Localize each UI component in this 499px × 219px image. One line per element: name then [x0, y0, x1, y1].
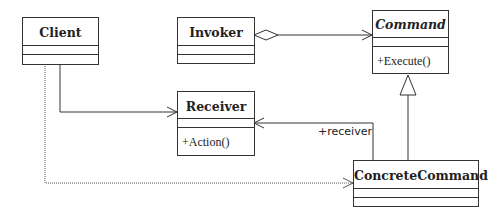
class-invoker[interactable]: Invoker: [177, 17, 255, 64]
class-command[interactable]: Command +Execute(): [372, 10, 449, 74]
operation-action: +Action(): [182, 135, 229, 150]
class-name: Command: [373, 17, 448, 32]
divider: [354, 197, 478, 198]
divider: [23, 54, 98, 55]
divider: [373, 37, 448, 38]
association-client-receiver: [60, 64, 177, 117]
divider: [178, 118, 254, 119]
class-client[interactable]: Client: [22, 17, 99, 65]
divider: [23, 45, 98, 46]
role-label-receiver: +receiver: [318, 125, 372, 138]
class-name: Invoker: [178, 25, 254, 40]
divider: [354, 188, 478, 189]
divider: [178, 127, 254, 128]
class-name: ConcreteCommand: [354, 168, 478, 183]
divider: [178, 54, 254, 55]
class-concrete-command[interactable]: ConcreteCommand: [353, 160, 479, 207]
generalization-concretecommand-command: [400, 75, 416, 160]
class-receiver[interactable]: Receiver +Action(): [177, 91, 255, 156]
operation-execute: +Execute(): [377, 54, 430, 69]
class-name: Client: [23, 25, 98, 40]
aggregation-invoker-command: [254, 30, 372, 40]
class-name: Receiver: [178, 99, 254, 114]
divider: [373, 46, 448, 47]
divider: [178, 45, 254, 46]
